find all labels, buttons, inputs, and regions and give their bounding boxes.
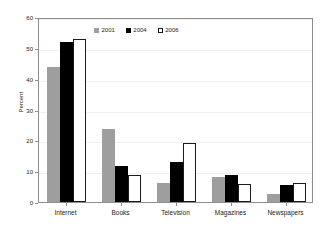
bar-magazines-2004 bbox=[225, 175, 238, 202]
bar-magazines-2001 bbox=[212, 177, 225, 202]
bar-newspapers-2006 bbox=[293, 183, 306, 202]
bar-internet-2001 bbox=[47, 67, 60, 202]
bar-group bbox=[259, 19, 314, 202]
y-axis-tick-label: 30 bbox=[8, 108, 38, 114]
x-axis-tick bbox=[66, 203, 67, 206]
legend-label-2001: 2001 bbox=[102, 27, 115, 33]
bar-group bbox=[39, 19, 94, 202]
y-axis-tick-label: 0 bbox=[8, 200, 38, 206]
y-axis-tick-label: 10 bbox=[8, 169, 38, 175]
x-axis-label-newspapers: Newspapers bbox=[267, 209, 303, 216]
x-axis-tick bbox=[176, 203, 177, 206]
legend-swatch-2001 bbox=[94, 28, 99, 33]
y-axis-tick-label: 50 bbox=[8, 46, 38, 52]
x-axis-tick bbox=[286, 203, 287, 206]
bar-books-2001 bbox=[102, 129, 115, 202]
bar-books-2004 bbox=[115, 166, 128, 202]
bar-newspapers-2004 bbox=[280, 185, 293, 202]
x-axis-tick bbox=[231, 203, 232, 206]
bars-layer bbox=[39, 19, 312, 202]
bar-books-2006 bbox=[128, 175, 141, 202]
chart-legend: 200120042006 bbox=[94, 27, 179, 33]
bar-chart: Percent 0102030405060 InternetBooksTelev… bbox=[0, 0, 329, 230]
bar-group bbox=[204, 19, 259, 202]
legend-item-2006[interactable]: 2006 bbox=[158, 27, 179, 33]
bar-television-2004 bbox=[170, 162, 183, 202]
bar-television-2006 bbox=[183, 143, 196, 202]
bar-group bbox=[94, 19, 149, 202]
bar-internet-2006 bbox=[73, 39, 86, 202]
legend-swatch-2006 bbox=[158, 28, 163, 33]
bar-internet-2004 bbox=[60, 42, 73, 202]
legend-item-2001[interactable]: 2001 bbox=[94, 27, 115, 33]
x-axis-label-internet: Internet bbox=[54, 209, 76, 216]
legend-label-2004: 2004 bbox=[133, 27, 146, 33]
x-axis-tick bbox=[121, 203, 122, 206]
y-axis-tick-label: 20 bbox=[8, 138, 38, 144]
legend-swatch-2004 bbox=[126, 28, 131, 33]
plot-area bbox=[38, 18, 313, 203]
bar-magazines-2006 bbox=[238, 184, 251, 202]
bar-group bbox=[149, 19, 204, 202]
x-axis-label-books: Books bbox=[111, 209, 129, 216]
x-axis-label-television: Television bbox=[161, 209, 190, 216]
y-axis-tick-label: 40 bbox=[8, 77, 38, 83]
legend-label-2006: 2006 bbox=[165, 27, 178, 33]
y-axis-labels: 0102030405060 bbox=[0, 0, 38, 230]
bar-television-2001 bbox=[157, 183, 170, 202]
bar-newspapers-2001 bbox=[267, 194, 280, 202]
y-axis-tick-label: 60 bbox=[8, 15, 38, 21]
legend-item-2004[interactable]: 2004 bbox=[126, 27, 147, 33]
x-axis-label-magazines: Magazines bbox=[215, 209, 246, 216]
